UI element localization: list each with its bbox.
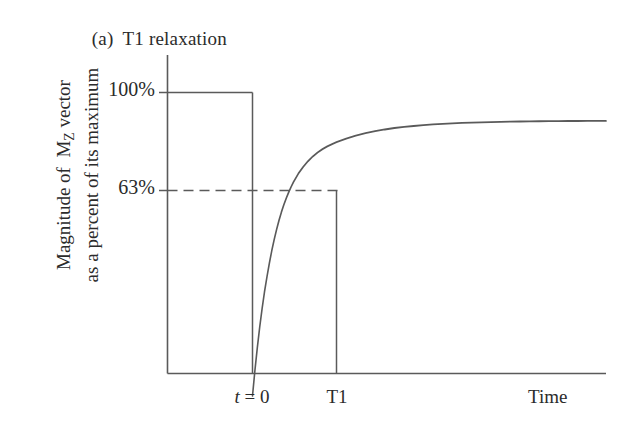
x-label-t-zero: t = 0 <box>212 386 292 408</box>
y-axis-title-line1-pre: Magnitude of M <box>53 141 74 270</box>
y-axis-title-line2: as a percent of its maximum <box>79 68 104 283</box>
x-label-t-rest: = 0 <box>240 386 270 407</box>
y-axis-title: Magnitude of MZ vector as a percent of i… <box>48 15 108 335</box>
y-axis-title-subscript: Z <box>62 132 77 140</box>
y-axis-title-line1: Magnitude of MZ vector <box>51 80 79 270</box>
recovery-curve <box>253 121 607 396</box>
figure-root: (a)T1 relaxation 100% 63% t = 0 T1 Time … <box>0 0 632 437</box>
y-axis-title-line1-post: vector <box>53 80 74 132</box>
x-label-t1: T1 <box>300 386 374 408</box>
x-label-time: Time <box>528 386 608 408</box>
